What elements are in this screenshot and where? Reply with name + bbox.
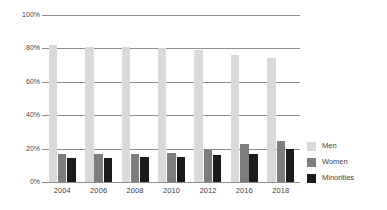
- y-axis-tick-label: 80%: [2, 44, 40, 51]
- bar-minorities-2008: [140, 157, 149, 182]
- bar-men-2006: [85, 47, 94, 182]
- bar-group: [267, 15, 294, 182]
- y-axis-tick-label: 40%: [2, 111, 40, 118]
- bar-men-2008: [122, 47, 131, 182]
- legend-swatch-minorities: [307, 174, 316, 183]
- y-axis-tick-label: 20%: [2, 145, 40, 152]
- legend-label: Minorities: [322, 174, 354, 182]
- bar-women-2016: [240, 144, 249, 182]
- x-axis-tick-label: 2016: [230, 187, 258, 195]
- bar-minorities-2012: [213, 155, 222, 182]
- bar-group: [85, 15, 112, 182]
- legend-item-minorities: Minorities: [307, 170, 354, 186]
- y-axis-tick-label: 0%: [2, 178, 40, 185]
- bar-women-2006: [94, 154, 103, 182]
- bar-men-2004: [49, 45, 58, 182]
- x-axis-tick-label: 2008: [121, 187, 149, 195]
- bar-minorities-2018: [286, 149, 295, 182]
- bar-men-2016: [231, 55, 240, 182]
- bar-group: [158, 15, 185, 182]
- y-axis-tick-label: 100%: [2, 11, 40, 18]
- bar-minorities-2006: [104, 158, 113, 182]
- bar-group: [231, 15, 258, 182]
- bar-women-2008: [131, 154, 140, 182]
- x-axis-tick-label: 2018: [267, 187, 295, 195]
- plot-area: [45, 15, 300, 182]
- bar-men-2010: [158, 48, 167, 182]
- x-axis-tick-label: 2010: [158, 187, 186, 195]
- bar-minorities-2016: [249, 154, 258, 182]
- bar-women-2012: [204, 150, 213, 182]
- bar-minorities-2004: [67, 158, 76, 182]
- bar-men-2018: [267, 58, 276, 182]
- bar-women-2010: [167, 153, 176, 182]
- bar-women-2004: [58, 154, 67, 182]
- bar-minorities-2010: [177, 157, 186, 182]
- x-axis-tick-label: 2004: [48, 187, 76, 195]
- legend-swatch-men: [307, 142, 316, 151]
- x-axis-tick-label: 2006: [85, 187, 113, 195]
- bar-group: [49, 15, 76, 182]
- legend-item-women: Women: [307, 154, 354, 170]
- axis-baseline: [45, 182, 300, 183]
- bar-group: [122, 15, 149, 182]
- legend-item-men: Men: [307, 138, 354, 154]
- legend-label: Men: [322, 142, 337, 150]
- x-axis-tick-label: 2012: [194, 187, 222, 195]
- chart-legend: MenWomenMinorities: [307, 138, 354, 186]
- bar-men-2012: [194, 50, 203, 182]
- y-axis-tick-label: 60%: [2, 78, 40, 85]
- bar-chart: 0%20%40%60%80%100% 200420062008201020122…: [0, 0, 387, 210]
- bar-group: [194, 15, 221, 182]
- bar-women-2018: [277, 141, 286, 182]
- legend-swatch-women: [307, 158, 316, 167]
- legend-label: Women: [322, 158, 348, 166]
